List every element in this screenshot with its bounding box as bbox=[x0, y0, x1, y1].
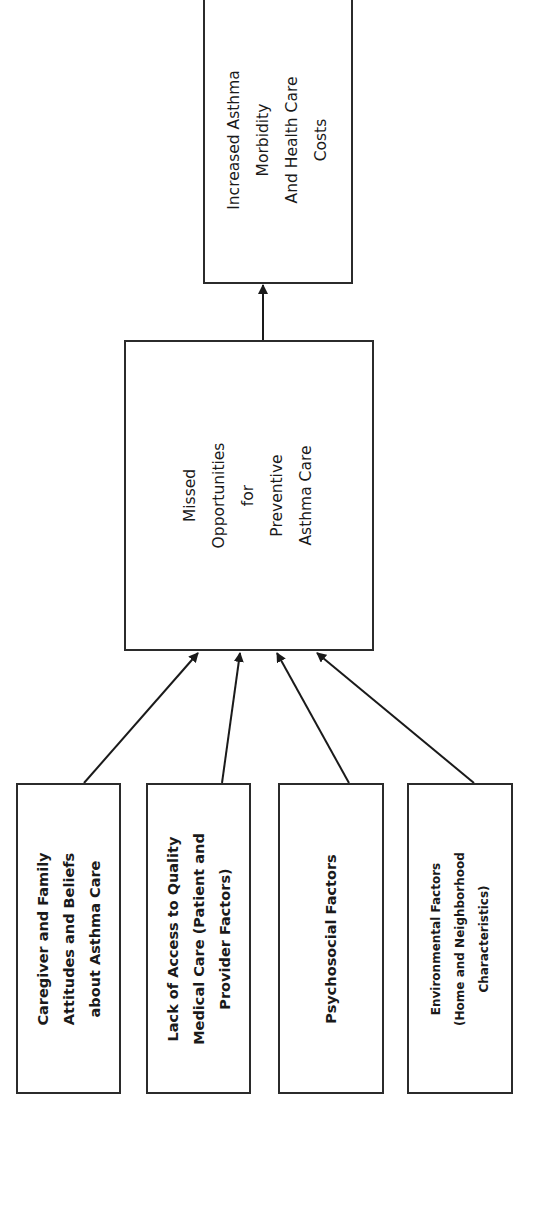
factor-box-access-to-care: Lack of Access to Quality Medical Care (… bbox=[146, 783, 251, 1094]
arrow-psychosocial-to-mediator bbox=[277, 653, 349, 783]
mediator-box: Missed Opportunities for Preventive Asth… bbox=[124, 340, 374, 651]
factor-label: Lack of Access to Quality Medical Care (… bbox=[160, 833, 238, 1045]
factor-label: Psychosocial Factors bbox=[318, 854, 344, 1023]
factor-box-caregiver: Caregiver and Family Attitudes and Belie… bbox=[16, 783, 121, 1094]
factor-box-environmental: Environmental Factors (Home and Neighbor… bbox=[407, 783, 513, 1094]
factor-box-psychosocial: Psychosocial Factors bbox=[278, 783, 384, 1094]
arrow-access-to-mediator bbox=[222, 653, 240, 783]
mediator-label: Missed Opportunities for Preventive Asth… bbox=[176, 443, 321, 549]
outcome-box: Increased Asthma Morbidity And Health Ca… bbox=[203, 0, 353, 284]
arrow-caregiver-to-mediator bbox=[84, 653, 198, 783]
factor-label: Environmental Factors (Home and Neighbor… bbox=[424, 852, 496, 1026]
factor-label: Caregiver and Family Attitudes and Belie… bbox=[30, 852, 108, 1025]
arrow-environmental-to-mediator bbox=[317, 653, 474, 783]
asthma-conceptual-model-diagram: Increased Asthma Morbidity And Health Ca… bbox=[0, 0, 547, 1217]
outcome-label: Increased Asthma Morbidity And Health Ca… bbox=[220, 70, 336, 210]
